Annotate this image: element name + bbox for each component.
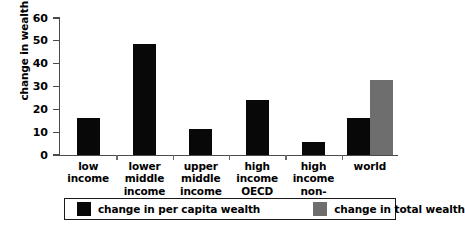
x-tick-label: high income OECD: [229, 160, 285, 197]
y-tick-label: 30: [22, 81, 48, 92]
y-tick-label: 40: [22, 58, 48, 69]
y-tick-mark: [53, 63, 59, 64]
x-tick-label: lower middle income: [116, 160, 172, 197]
y-tick-mark: [53, 40, 59, 41]
legend-swatch-icon-black: [77, 202, 91, 216]
y-tick-mark: [53, 86, 59, 87]
y-tick-mark: [53, 17, 59, 18]
y-tick-label: 10: [22, 127, 48, 138]
y-tick-label: 0: [22, 150, 48, 161]
y-tick-label: 60: [22, 13, 48, 24]
y-tick-label: 50: [22, 35, 48, 46]
legend-swatch-icon-gray: [313, 202, 327, 216]
y-tick-label: 20: [22, 104, 48, 115]
bar: [189, 129, 212, 155]
legend-label-total-wealth: change in total wealth: [334, 203, 465, 215]
chart-legend: change in per capita wealth change in to…: [64, 198, 396, 220]
legend-item-total-wealth: change in total wealth: [313, 202, 465, 216]
legend-item-per-capita-wealth: change in per capita wealth: [77, 202, 260, 216]
y-tick-mark: [53, 109, 59, 110]
bar: [246, 100, 269, 155]
x-tick-label: world: [342, 160, 398, 172]
bar: [302, 142, 325, 155]
y-tick-mark: [53, 132, 59, 133]
bar: [133, 44, 156, 155]
x-tick-label: low income: [60, 160, 116, 185]
bar: [370, 80, 393, 155]
bar: [347, 118, 370, 155]
legend-label-per-capita-wealth: change in per capita wealth: [98, 203, 260, 215]
plot-area: [60, 18, 398, 155]
y-tick-mark: [53, 154, 59, 155]
bar: [77, 118, 100, 155]
x-tick-label: upper middle income: [173, 160, 229, 197]
